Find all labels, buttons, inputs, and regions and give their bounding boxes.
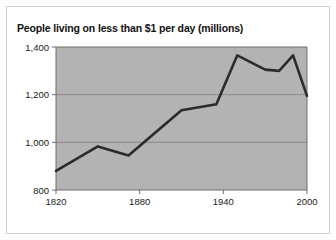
x-tick-label-1880: 1880 [129,196,150,207]
plot-area-wrapper: 8001,0001,2001,400 1820188019402000 [0,0,336,240]
x-axis-tick-labels: 1820188019402000 [45,196,317,207]
line-chart-svg: 8001,0001,2001,400 1820188019402000 [0,0,336,240]
x-tick-label-2000: 2000 [296,196,317,207]
y-axis-tick-labels: 8001,0001,2001,400 [25,42,49,196]
chart-figure: People living on less than $1 per day (m… [0,0,336,240]
y-tick-label-1200: 1,200 [25,89,49,100]
y-tick-label-1000: 1,000 [25,137,49,148]
x-tick-label-1940: 1940 [213,196,234,207]
x-tick-label-1820: 1820 [45,196,66,207]
y-tick-label-1400: 1,400 [25,42,49,53]
y-tick-label-800: 800 [33,185,49,196]
plot-background [56,47,307,190]
